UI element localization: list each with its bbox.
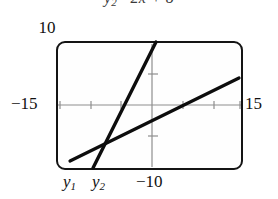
plot-area	[56, 41, 243, 170]
x-max-label: 15	[245, 94, 262, 114]
curve-label-y2: y2	[92, 172, 105, 192]
caption-equals: =	[117, 0, 130, 6]
curve-label-y1: y1	[63, 172, 76, 192]
caption-expression: 2x + 8	[130, 0, 174, 6]
x-min-label: −15	[11, 94, 38, 114]
y-min-label: −10	[136, 172, 163, 192]
graphing-calculator-figure: y2=2x + 8 10 −15 15 −10 y1	[0, 0, 278, 199]
y-max-label: 10	[0, 18, 278, 38]
curve-y1	[70, 78, 239, 161]
equation-caption: y2=2x + 8	[0, 0, 278, 8]
